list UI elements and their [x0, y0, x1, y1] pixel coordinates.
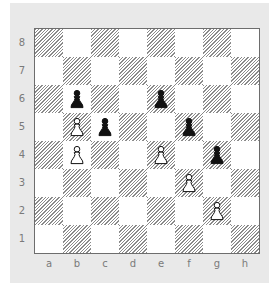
rank-label-5: 5 — [16, 113, 28, 141]
square-d1[interactable] — [119, 225, 147, 253]
square-c7[interactable] — [91, 57, 119, 85]
square-d4[interactable] — [119, 141, 147, 169]
square-b3[interactable] — [63, 169, 91, 197]
square-g2[interactable] — [203, 197, 231, 225]
square-d8[interactable] — [119, 29, 147, 57]
square-a4[interactable] — [35, 141, 63, 169]
square-g6[interactable] — [203, 85, 231, 113]
square-h1[interactable] — [231, 225, 259, 253]
square-a6[interactable] — [35, 85, 63, 113]
black-pawn-icon[interactable] — [152, 89, 170, 109]
file-label-f: f — [175, 258, 203, 269]
square-e5[interactable] — [147, 113, 175, 141]
square-f8[interactable] — [175, 29, 203, 57]
square-d6[interactable] — [119, 85, 147, 113]
square-f5[interactable] — [175, 113, 203, 141]
square-h8[interactable] — [231, 29, 259, 57]
square-e3[interactable] — [147, 169, 175, 197]
square-h4[interactable] — [231, 141, 259, 169]
square-b2[interactable] — [63, 197, 91, 225]
square-b5[interactable] — [63, 113, 91, 141]
square-g3[interactable] — [203, 169, 231, 197]
square-e6[interactable] — [147, 85, 175, 113]
white-pawn-icon[interactable] — [68, 117, 86, 137]
rank-label-6: 6 — [16, 85, 28, 113]
square-f4[interactable] — [175, 141, 203, 169]
square-a8[interactable] — [35, 29, 63, 57]
square-e2[interactable] — [147, 197, 175, 225]
square-a1[interactable] — [35, 225, 63, 253]
black-pawn-icon[interactable] — [96, 117, 114, 137]
square-a2[interactable] — [35, 197, 63, 225]
square-g8[interactable] — [203, 29, 231, 57]
square-a5[interactable] — [35, 113, 63, 141]
white-pawn-icon[interactable] — [208, 201, 226, 221]
square-f2[interactable] — [175, 197, 203, 225]
square-f3[interactable] — [175, 169, 203, 197]
square-d2[interactable] — [119, 197, 147, 225]
square-c1[interactable] — [91, 225, 119, 253]
square-b1[interactable] — [63, 225, 91, 253]
square-c6[interactable] — [91, 85, 119, 113]
file-label-g: g — [203, 258, 231, 269]
file-label-a: a — [35, 258, 63, 269]
square-c5[interactable] — [91, 113, 119, 141]
chess-board — [34, 28, 260, 254]
square-h2[interactable] — [231, 197, 259, 225]
square-g5[interactable] — [203, 113, 231, 141]
white-pawn-icon[interactable] — [152, 145, 170, 165]
rank-label-2: 2 — [16, 197, 28, 225]
white-pawn-icon[interactable] — [180, 173, 198, 193]
file-label-d: d — [119, 258, 147, 269]
square-d7[interactable] — [119, 57, 147, 85]
square-d5[interactable] — [119, 113, 147, 141]
square-g4[interactable] — [203, 141, 231, 169]
black-pawn-icon[interactable] — [208, 145, 226, 165]
white-pawn-icon[interactable] — [68, 145, 86, 165]
square-e4[interactable] — [147, 141, 175, 169]
black-pawn-icon[interactable] — [68, 89, 86, 109]
square-f6[interactable] — [175, 85, 203, 113]
square-b4[interactable] — [63, 141, 91, 169]
square-e8[interactable] — [147, 29, 175, 57]
black-pawn-icon[interactable] — [180, 117, 198, 137]
square-h3[interactable] — [231, 169, 259, 197]
rank-label-7: 7 — [16, 57, 28, 85]
file-label-b: b — [63, 258, 91, 269]
square-h5[interactable] — [231, 113, 259, 141]
square-a3[interactable] — [35, 169, 63, 197]
square-b7[interactable] — [63, 57, 91, 85]
square-b6[interactable] — [63, 85, 91, 113]
square-b8[interactable] — [63, 29, 91, 57]
file-label-e: e — [147, 258, 175, 269]
rank-label-1: 1 — [16, 225, 28, 253]
square-a7[interactable] — [35, 57, 63, 85]
rank-label-3: 3 — [16, 169, 28, 197]
square-c3[interactable] — [91, 169, 119, 197]
square-e7[interactable] — [147, 57, 175, 85]
square-d3[interactable] — [119, 169, 147, 197]
square-g7[interactable] — [203, 57, 231, 85]
rank-label-4: 4 — [16, 141, 28, 169]
square-h6[interactable] — [231, 85, 259, 113]
square-g1[interactable] — [203, 225, 231, 253]
square-h7[interactable] — [231, 57, 259, 85]
square-c2[interactable] — [91, 197, 119, 225]
square-e1[interactable] — [147, 225, 175, 253]
file-label-h: h — [231, 258, 259, 269]
square-f7[interactable] — [175, 57, 203, 85]
rank-label-8: 8 — [16, 29, 28, 57]
square-c8[interactable] — [91, 29, 119, 57]
square-f1[interactable] — [175, 225, 203, 253]
file-label-c: c — [91, 258, 119, 269]
square-c4[interactable] — [91, 141, 119, 169]
